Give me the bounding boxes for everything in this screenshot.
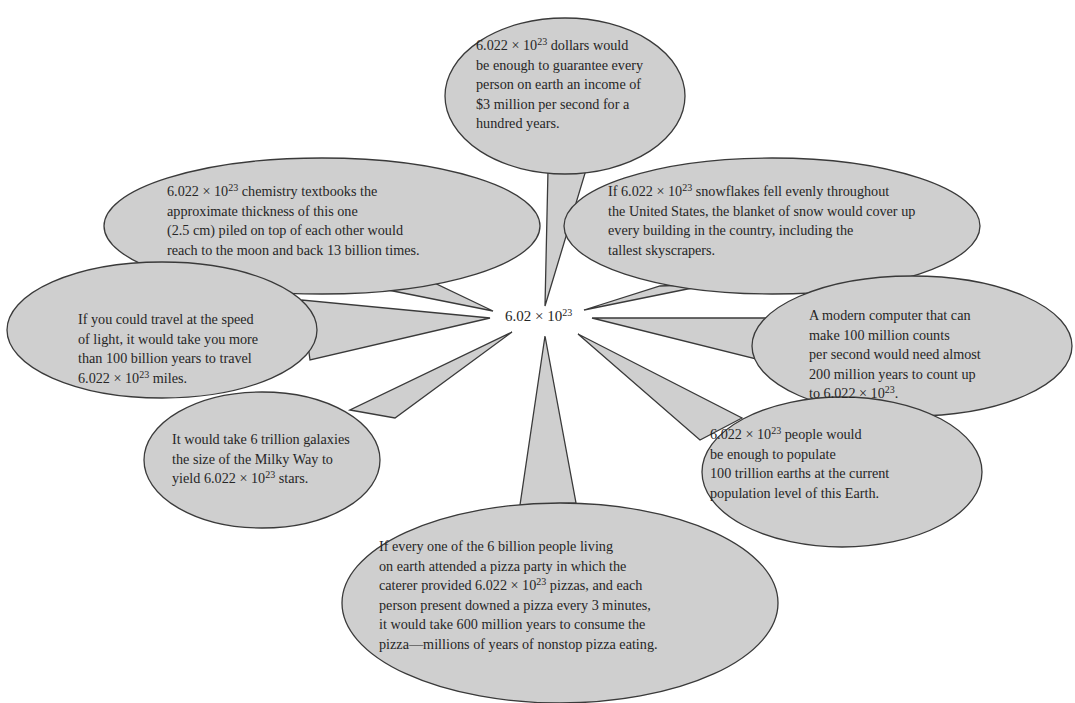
bubble-line: 6.022 × 1023 miles. — [78, 369, 258, 389]
line-text: hundred years. — [476, 115, 560, 131]
line-text: pizzas, and each — [546, 577, 642, 593]
line-text: pizza—millions of years of nonstop pizza… — [379, 636, 658, 652]
center-label-avogadro-number: 6.02 × 1023 — [505, 308, 572, 325]
line-text: $3 million per second for a — [476, 96, 629, 112]
exponent: 23 — [537, 36, 547, 47]
bubble-line: 6.022 × 1023 people would — [710, 425, 889, 445]
pointer-wedge-light — [302, 300, 490, 360]
line-text: per second would need almost — [809, 346, 981, 362]
line-text: It would take 6 trillion galaxies — [172, 431, 350, 447]
bubble-line: be enough to populate — [710, 445, 889, 465]
line-text: 6.022 × 10 — [78, 370, 139, 386]
pointer-wedge-computer — [592, 318, 768, 360]
bubble-line: population level of this Earth. — [710, 484, 889, 504]
bubble-line: of light, it would take you more — [78, 330, 258, 350]
line-text: person on earth an income of — [476, 76, 641, 92]
line-text: person present downed a pizza every 3 mi… — [379, 597, 651, 613]
bubble-line: on earth attended a pizza party in which… — [379, 557, 658, 577]
center-label-base: 6.02 × 10 — [505, 308, 562, 324]
bubble-line: to 6.022 × 1023. — [809, 384, 981, 404]
bubble-text-people: 6.022 × 1023 people wouldbe enough to po… — [710, 425, 889, 503]
bubble-line: make 100 million counts — [809, 326, 981, 346]
line-text: snowflakes fell evenly throughout — [692, 183, 889, 199]
bubble-line: A modern computer that can — [809, 306, 981, 326]
bubble-line: every building in the country, including… — [608, 221, 915, 241]
bubble-line: 100 trillion earths at the current — [710, 464, 889, 484]
bubble-line: If every one of the 6 billion people liv… — [379, 537, 658, 557]
line-text: be enough to populate — [710, 446, 836, 462]
line-text: tallest skyscrapers. — [608, 242, 715, 258]
avogadro-number-diagram: 6.02 × 1023 6.022 × 1023 dollars wouldbe… — [0, 0, 1075, 703]
line-text: reach to the moon and back 13 billion ti… — [167, 242, 420, 258]
line-text: approximate thickness of this one — [167, 203, 358, 219]
bubble-line: (2.5 cm) piled on top of each other woul… — [167, 221, 420, 241]
exponent: 23 — [536, 576, 546, 587]
bubble-text-snowflakes: If 6.022 × 1023 snowflakes fell evenly t… — [608, 182, 915, 260]
bubble-line: hundred years. — [476, 114, 643, 134]
line-text: population level of this Earth. — [710, 485, 879, 501]
line-text: people would — [781, 426, 861, 442]
line-text: stars. — [275, 470, 308, 486]
exponent: 23 — [682, 182, 692, 193]
bubble-line: person present downed a pizza every 3 mi… — [379, 596, 658, 616]
line-text: every building in the country, including… — [608, 222, 853, 238]
center-label-exponent: 23 — [562, 307, 572, 318]
bubble-line: It would take 6 trillion galaxies — [172, 430, 350, 450]
line-text: If you could travel at the speed — [78, 311, 254, 327]
line-text: be enough to guarantee every — [476, 57, 643, 73]
line-text: 100 trillion earths at the current — [710, 465, 889, 481]
bubble-line: the size of the Milky Way to — [172, 450, 350, 470]
bubble-line: it would take 600 million years to consu… — [379, 615, 658, 635]
line-text: (2.5 cm) piled on top of each other woul… — [167, 222, 403, 238]
bubble-text-pizza: If every one of the 6 billion people liv… — [379, 537, 658, 654]
exponent: 23 — [771, 425, 781, 436]
line-text: caterer provided 6.022 × 10 — [379, 577, 536, 593]
bubble-text-light: If you could travel at the speedof light… — [78, 310, 258, 388]
line-text: If 6.022 × 10 — [608, 183, 682, 199]
bubble-line: 6.022 × 1023 dollars would — [476, 36, 643, 56]
line-text: dollars would — [547, 37, 628, 53]
bubble-line: caterer provided 6.022 × 1023 pizzas, an… — [379, 576, 658, 596]
line-text: make 100 million counts — [809, 327, 950, 343]
exponent: 23 — [885, 384, 895, 395]
line-text: If every one of the 6 billion people liv… — [379, 538, 613, 554]
bubble-line: than 100 billion years to travel — [78, 349, 258, 369]
bubble-text-computer: A modern computer that canmake 100 milli… — [809, 306, 981, 404]
line-text: miles. — [149, 370, 187, 386]
line-text: A modern computer that can — [809, 307, 971, 323]
line-text: . — [895, 385, 899, 401]
bubble-line: yield 6.022 × 1023 stars. — [172, 469, 350, 489]
line-text: to 6.022 × 10 — [809, 385, 885, 401]
bubble-line: per second would need almost — [809, 345, 981, 365]
bubble-line: approximate thickness of this one — [167, 202, 420, 222]
line-text: of light, it would take you more — [78, 331, 258, 347]
bubble-line: pizza—millions of years of nonstop pizza… — [379, 635, 658, 655]
bubble-line: If you could travel at the speed — [78, 310, 258, 330]
line-text: than 100 billion years to travel — [78, 350, 252, 366]
bubble-line: $3 million per second for a — [476, 95, 643, 115]
bubble-line: 6.022 × 1023 chemistry textbooks the — [167, 182, 420, 202]
pointer-wedge-pizza — [520, 336, 576, 505]
bubble-line: be enough to guarantee every — [476, 56, 643, 76]
line-text: chemistry textbooks the — [238, 183, 377, 199]
bubble-line: the United States, the blanket of snow w… — [608, 202, 915, 222]
bubble-text-dollars: 6.022 × 1023 dollars wouldbe enough to g… — [476, 36, 643, 134]
line-text: 6.022 × 10 — [167, 183, 228, 199]
exponent: 23 — [228, 182, 238, 193]
bubble-line: reach to the moon and back 13 billion ti… — [167, 241, 420, 261]
line-text: yield 6.022 × 10 — [172, 470, 265, 486]
line-text: the United States, the blanket of snow w… — [608, 203, 915, 219]
bubble-line: tallest skyscrapers. — [608, 241, 915, 261]
exponent: 23 — [139, 369, 149, 380]
exponent: 23 — [265, 469, 275, 480]
line-text: on earth attended a pizza party in which… — [379, 558, 626, 574]
bubble-text-galaxies: It would take 6 trillion galaxiesthe siz… — [172, 430, 350, 489]
line-text: 6.022 × 10 — [710, 426, 771, 442]
bubble-line: If 6.022 × 1023 snowflakes fell evenly t… — [608, 182, 915, 202]
bubble-line: 200 million years to count up — [809, 365, 981, 385]
bubble-text-textbooks: 6.022 × 1023 chemistry textbooks theappr… — [167, 182, 420, 260]
bubble-line: person on earth an income of — [476, 75, 643, 95]
line-text: 200 million years to count up — [809, 366, 976, 382]
line-text: the size of the Milky Way to — [172, 451, 333, 467]
line-text: it would take 600 million years to consu… — [379, 616, 645, 632]
